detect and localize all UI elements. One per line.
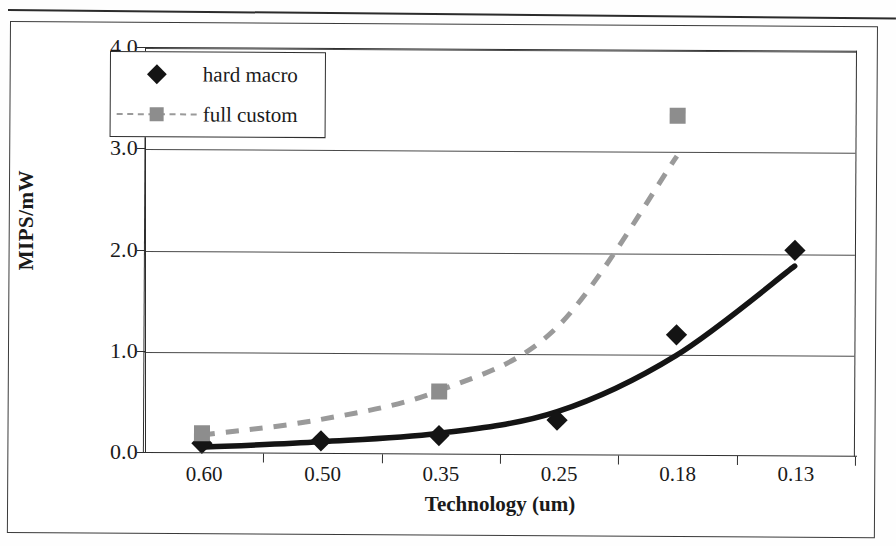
legend-label-full-custom: full custom bbox=[203, 102, 298, 127]
x-axis-title: Technology (um) bbox=[145, 492, 855, 517]
chart-canvas: 0.01.02.03.04.0 0.600.500.350.250.180.13… bbox=[0, 0, 896, 546]
y-tick-label: 1.0 bbox=[110, 338, 138, 364]
legend-key-square-dashed-icon bbox=[111, 99, 203, 129]
y-tick-label: 0.0 bbox=[110, 439, 138, 465]
legend-item-full-custom: full custom bbox=[111, 96, 325, 133]
y-tick-label: 2.0 bbox=[110, 237, 138, 263]
y-tick-label: 3.0 bbox=[110, 135, 138, 161]
legend-label-hard-macro: hard macro bbox=[203, 62, 298, 87]
x-tick-labels: 0.600.500.350.250.180.13 bbox=[145, 462, 855, 492]
y-tick-1-0 bbox=[137, 351, 146, 352]
x-tick-label: 0.25 bbox=[541, 462, 578, 487]
y-axis-title: MIPS/mW bbox=[14, 170, 39, 270]
x-tick-label: 0.35 bbox=[422, 462, 459, 487]
y-tick-4-0 bbox=[137, 47, 146, 48]
gridline-3-0 bbox=[145, 149, 855, 154]
x-tick-label: 0.50 bbox=[304, 462, 341, 487]
legend-item-hard-macro: hard macro bbox=[111, 56, 325, 93]
chart-legend: hard macro full custom bbox=[110, 51, 326, 138]
figure-page: 0.01.02.03.04.0 0.600.500.350.250.180.13… bbox=[0, 0, 896, 546]
x-tick-label: 0.60 bbox=[186, 462, 223, 487]
legend-key-diamond-icon bbox=[111, 59, 203, 89]
x-tick-label: 0.18 bbox=[659, 462, 696, 487]
y-tick-3-0 bbox=[137, 148, 146, 149]
x-tick-5 bbox=[855, 457, 856, 466]
x-tick-label: 0.13 bbox=[777, 462, 814, 487]
gridline-1-0 bbox=[144, 352, 854, 357]
gridline-2-0 bbox=[145, 251, 855, 256]
y-tick-2-0 bbox=[137, 250, 146, 251]
